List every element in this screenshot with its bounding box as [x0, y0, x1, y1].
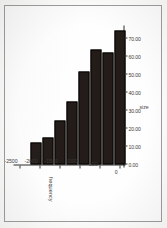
size-tick-label: 20.00	[129, 126, 141, 132]
frequency-axis-title: frequency	[48, 177, 54, 202]
size-tick	[125, 38, 128, 39]
bar-chart: 0.00 10.00 20.00 30.00 40.00 50.00 60.00…	[12, 16, 155, 212]
size-tick	[125, 128, 128, 129]
bar-30	[79, 72, 90, 165]
bar-row	[79, 72, 90, 165]
size-tick	[125, 110, 128, 111]
frequency-tick	[80, 166, 81, 169]
frequency-tick-label: -1000	[64, 158, 77, 164]
size-tick-label: 60.00	[129, 54, 141, 60]
bar-row	[67, 102, 78, 165]
size-tick	[125, 56, 128, 57]
bar-0	[115, 31, 126, 165]
bar-20	[91, 50, 102, 165]
frequency-tick-label: -1500	[44, 158, 57, 164]
size-tick	[125, 92, 128, 93]
size-tick-label: 40.00	[129, 90, 141, 96]
plot-area: 0.00 10.00 20.00 30.00 40.00 50.00 60.00…	[20, 28, 124, 166]
frequency-tick-label: -500	[87, 161, 97, 167]
size-tick	[125, 164, 128, 165]
size-tick-label: 10.00	[129, 144, 141, 150]
bar-row	[103, 53, 114, 165]
frequency-tick-label: -2500	[4, 158, 17, 164]
size-tick-label: 50.00	[129, 72, 141, 78]
frequency-tick	[100, 166, 101, 169]
bar-40	[67, 102, 78, 165]
scanned-page: 0.00 10.00 20.00 30.00 40.00 50.00 60.00…	[0, 0, 167, 228]
frequency-axis-line	[14, 165, 126, 166]
frequency-tick	[40, 166, 41, 169]
frequency-tick-label: -2000	[24, 158, 37, 164]
size-tick	[125, 146, 128, 147]
size-tick-label: 0.00	[129, 162, 139, 168]
frequency-tick	[20, 166, 21, 169]
bar-row	[91, 50, 102, 165]
size-axis-title: size	[140, 104, 149, 110]
size-tick	[125, 74, 128, 75]
bar-row	[115, 31, 126, 165]
size-tick-label: 70.00	[129, 36, 141, 42]
page-border: 0.00 10.00 20.00 30.00 40.00 50.00 60.00…	[4, 5, 162, 222]
frequency-tick	[120, 166, 121, 169]
bar-10	[103, 53, 114, 165]
frequency-tick	[60, 166, 61, 169]
frequency-tick-label: 0	[115, 169, 118, 175]
